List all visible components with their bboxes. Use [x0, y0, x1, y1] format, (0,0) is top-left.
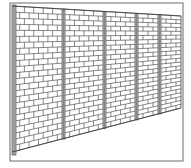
- post-4: [135, 13, 138, 120]
- frame-border: [10, 3, 183, 161]
- brick-wall-illustration: [0, 0, 191, 168]
- wall-outline: [12, 6, 181, 152]
- post-5: [158, 15, 161, 114]
- post-1: [12, 5, 16, 155]
- post-3: [103, 11, 106, 128]
- post-2: [62, 9, 65, 139]
